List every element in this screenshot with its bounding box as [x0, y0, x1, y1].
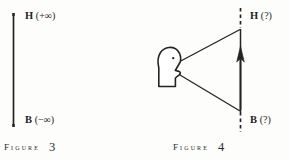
label-top-point-value: (?) — [261, 10, 272, 21]
caption-number: 3 — [49, 140, 55, 154]
label-top-point: H (+∞) — [25, 11, 55, 22]
label-bottom-point: B (−∞) — [25, 115, 54, 126]
sight-line-upper — [177, 30, 240, 64]
label-bottom-point-value: (?) — [260, 114, 271, 125]
eye-icon — [172, 57, 174, 59]
label-bottom-point: B (?) — [250, 115, 271, 126]
figure-4: H (?) B (?) Figure4 — [145, 0, 290, 160]
label-top-point: H (?) — [250, 11, 272, 22]
label-bottom-point-value: (−∞) — [35, 114, 54, 125]
head-profile-outline — [158, 47, 181, 86]
caption-word: Figure — [173, 142, 209, 152]
figure-3-drawing — [0, 0, 145, 140]
label-top-point-name: H — [25, 10, 33, 21]
figure-page: H (+∞) B (−∞) Figure3 — [0, 0, 290, 160]
label-bottom-point-name: B — [25, 114, 32, 125]
observer-head-icon — [158, 47, 181, 86]
figure-3-caption: Figure3 — [4, 139, 55, 154]
caption-number: 4 — [218, 140, 224, 154]
figure-4-caption: Figure4 — [173, 139, 224, 154]
caption-word: Figure — [4, 142, 40, 152]
label-top-point-name: H — [250, 10, 258, 21]
label-top-point-value: (+∞) — [36, 10, 55, 21]
label-bottom-point-name: B — [250, 114, 257, 125]
figure-3: H (+∞) B (−∞) Figure3 — [0, 0, 145, 160]
sight-line-lower — [175, 72, 240, 111]
